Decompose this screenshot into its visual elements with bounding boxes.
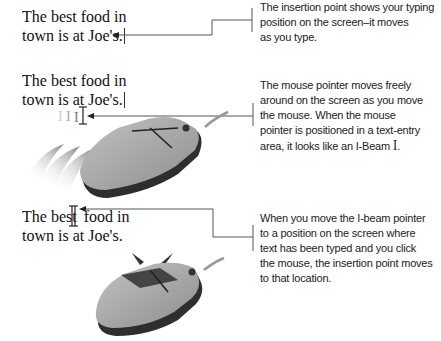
svg-text:I: I [66, 109, 71, 124]
svg-text:I: I [58, 109, 63, 124]
connector-3 [85, 209, 253, 251]
mouse-icon [80, 112, 228, 198]
illustration-overlay: I I I [0, 0, 441, 341]
ibeam-pointer-icon [79, 107, 87, 124]
mouse-icon [96, 258, 224, 336]
arrow-head-3 [79, 206, 86, 212]
arrow-head-1 [112, 32, 119, 38]
connector-1 [117, 8, 252, 35]
arrow-head-2 [87, 113, 94, 119]
svg-text:I: I [74, 110, 79, 125]
ibeam-pointer-icon [69, 206, 78, 226]
ibeam-trail-icon: I I I [58, 109, 79, 125]
